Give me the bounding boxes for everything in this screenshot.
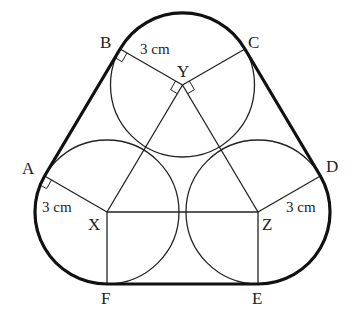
segment-zy	[183, 85, 259, 212]
label-b: B	[100, 34, 111, 51]
label-a: A	[22, 160, 34, 177]
label-y: Y	[177, 63, 189, 80]
diagram: A B C D E F X Y Z 3 cm 3 cm 3 cm	[0, 0, 358, 321]
label-d: D	[326, 158, 338, 175]
label-z: Z	[262, 216, 272, 233]
segment-xy	[107, 85, 183, 212]
label-e: E	[252, 290, 262, 307]
segment-yc	[183, 49, 245, 85]
right-angle-y-left	[171, 81, 178, 94]
right-angle-y-right	[188, 81, 195, 94]
label-c: C	[248, 34, 259, 51]
dimension-by: 3 cm	[140, 42, 170, 57]
dimension-ax: 3 cm	[42, 200, 72, 215]
label-f: F	[101, 290, 110, 307]
geometry-figure	[0, 0, 358, 321]
outer-band	[35, 13, 330, 284]
label-x: X	[88, 216, 100, 233]
dimension-zd: 3 cm	[286, 200, 316, 215]
